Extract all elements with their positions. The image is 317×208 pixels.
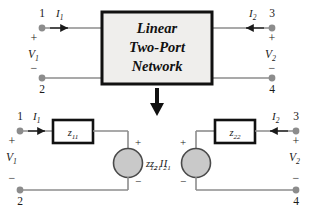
top-current-label-i2: I2	[248, 7, 257, 22]
left-mesh-terminal-label-2: 2	[17, 195, 23, 207]
two-port-network-figure: Linear Two-Port Network 1 2 3 4 I1 I2	[0, 0, 317, 208]
right-mesh-group: z22 + − z21 I1 3 4 I2	[149, 110, 300, 207]
dependent-source-z21i1	[182, 149, 211, 178]
right-mesh-voltage-label: V2	[289, 151, 300, 166]
top-current-label-i1: I1	[55, 7, 63, 22]
left-source-plus-sign: +	[135, 136, 141, 148]
top-right-minus-sign: −	[269, 61, 276, 75]
dependent-source-z12i2	[114, 149, 143, 178]
top-terminal-dot-1	[39, 25, 46, 32]
top-terminal-label-1: 1	[39, 7, 45, 19]
top-left-minus-sign: −	[31, 61, 38, 75]
right-mesh-terminal-label-4: 4	[293, 195, 299, 207]
left-mesh-plus-sign: +	[9, 134, 16, 148]
box-label-line1: Linear	[136, 20, 178, 36]
equivalent-circuit-arrow	[150, 88, 164, 116]
top-terminal-label-4: 4	[269, 83, 275, 95]
right-mesh-current-label-i2: I2	[271, 110, 280, 125]
top-terminal-label-2: 2	[39, 83, 45, 95]
left-mesh-minus-sign: −	[9, 171, 16, 185]
right-source-minus-sign: −	[180, 175, 186, 187]
right-mesh-terminal-label-3: 3	[293, 110, 299, 122]
left-mesh-current-label-i1: I1	[32, 110, 40, 125]
top-terminal-dot-2	[39, 75, 46, 82]
left-source-minus-sign: −	[135, 175, 141, 187]
right-mesh-plus-sign: +	[293, 134, 300, 148]
left-mesh-terminal-dot-2	[17, 187, 24, 194]
left-mesh-terminal-label-1: 1	[17, 110, 23, 122]
top-left-plus-sign: +	[31, 31, 38, 45]
right-source-plus-sign: +	[180, 136, 186, 148]
box-label-line3: Network	[131, 58, 184, 74]
right-mesh-minus-sign: −	[293, 171, 300, 185]
left-mesh-group: z11 + − z12 I2 1 2 I1	[6, 110, 167, 207]
right-mesh-terminal-dot-4	[293, 187, 300, 194]
box-label-line2: Two-Port	[129, 39, 186, 55]
top-right-plus-sign: +	[269, 31, 276, 45]
top-terminal-label-3: 3	[269, 7, 275, 19]
left-mesh-terminal-dot-1	[17, 128, 24, 135]
left-mesh-voltage-label: V1	[6, 151, 17, 166]
top-terminal-dot-4	[269, 75, 276, 82]
top-block-group: Linear Two-Port Network 1 2 3 4 I1 I2	[28, 7, 276, 95]
